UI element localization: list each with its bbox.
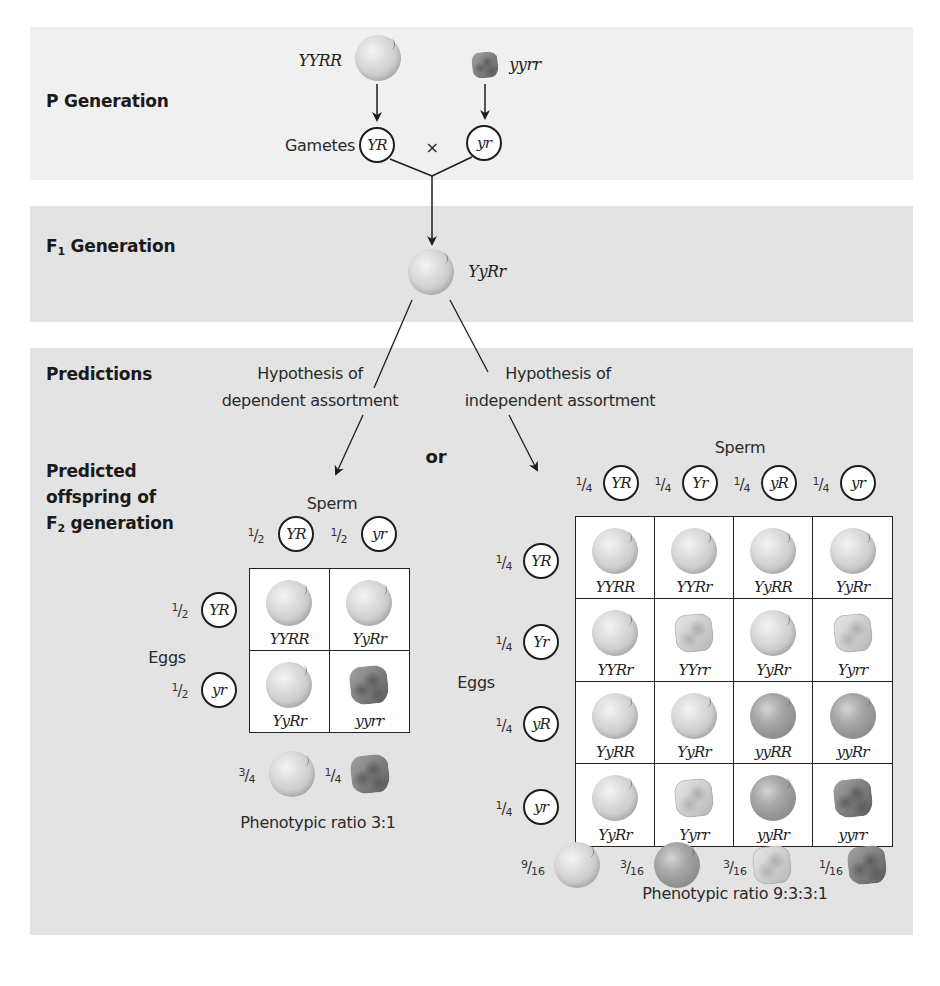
cell-genotype: yyRr	[757, 826, 789, 844]
fraction-denominator: 2	[182, 608, 189, 621]
independent-punnett-square: YYRRYYRrYyRRYyRrYYRrYYrrYyRrYyrrYyRRYyRr…	[575, 516, 893, 847]
punnett-cell: YyRr	[734, 599, 813, 681]
sperm-gamete: yR	[761, 465, 797, 501]
gamete-yr-recessive: yr	[466, 125, 502, 161]
wrinkled-yellow-pea-icon	[751, 844, 793, 886]
dependent-hypothesis-line1: Hypothesis of	[257, 364, 362, 383]
egg-gamete: Yr	[523, 624, 559, 660]
phenotype-fraction: 1/16	[819, 858, 843, 878]
egg-fraction: 1/2	[171, 601, 188, 621]
cell-genotype: YyRr	[756, 661, 790, 679]
sperm-gamete: Yr	[682, 465, 718, 501]
independent-eggs-label: Eggs	[457, 673, 495, 692]
cell-genotype: Yyrr	[838, 661, 868, 679]
sperm-fraction: 1/2	[247, 526, 264, 546]
round-green-pea-icon	[654, 842, 700, 888]
punnett-cell: yyRR	[734, 682, 813, 764]
egg-gamete: yR	[523, 706, 559, 742]
f1-genotype: YyRr	[468, 262, 505, 281]
wrinkled-yellow-pea-icon	[673, 777, 715, 819]
egg-fraction: 1/4	[495, 553, 512, 573]
fraction-denominator: 4	[249, 773, 256, 786]
dependent-hypothesis-line2: dependent assortment	[222, 391, 399, 410]
wrinkled-green-pea-icon	[348, 664, 390, 706]
punnett-cell: YyRr	[655, 682, 734, 764]
round-green-pea-icon	[830, 693, 876, 739]
fraction-denominator: 4	[665, 482, 672, 495]
sperm-gamete: YR	[278, 516, 314, 552]
sperm-gamete: yr	[840, 465, 876, 501]
punnett-cell: Yyrr	[813, 599, 892, 681]
egg-fraction: 1/4	[495, 634, 512, 654]
round-yellow-pea-icon	[830, 528, 876, 574]
round-yellow-pea-icon	[592, 693, 638, 739]
cell-genotype: YyRr	[352, 630, 386, 648]
parent2-genotype: yyrr	[509, 55, 540, 74]
punnett-cell: YYrr	[655, 599, 734, 681]
punnett-cell: YYRr	[655, 517, 734, 599]
egg-gamete: YR	[523, 543, 559, 579]
egg-gamete: yr	[201, 672, 237, 708]
fraction-denominator: 16	[531, 865, 545, 878]
punnett-cell: YyRR	[734, 517, 813, 599]
f1-round-yellow-pea-icon	[408, 249, 454, 295]
fraction-denominator: 2	[341, 533, 348, 546]
cell-genotype: YYrr	[679, 661, 710, 679]
round-yellow-pea-icon	[592, 610, 638, 656]
round-yellow-pea-icon	[269, 751, 315, 797]
f1-generation-label: F1 Generation	[46, 233, 175, 265]
punnett-cell: yyRr	[734, 764, 813, 846]
phenotype-fraction: 1/4	[324, 766, 341, 786]
cell-genotype: YYRR	[270, 630, 309, 648]
fraction-denominator: 2	[182, 688, 189, 701]
round-yellow-pea-icon	[266, 662, 312, 708]
egg-gamete: yr	[523, 789, 559, 825]
phenotype-fraction: 3/16	[620, 858, 644, 878]
fraction-denominator: 4	[744, 482, 751, 495]
punnett-cell: YYRR	[576, 517, 655, 599]
wrinkled-green-pea-icon	[832, 777, 874, 819]
egg-fraction: 1/2	[171, 681, 188, 701]
cell-genotype: YYRr	[676, 578, 711, 596]
fraction-denominator: 4	[335, 773, 342, 786]
sperm-fraction: 1/4	[812, 475, 829, 495]
parent1-genotype: YYRR	[298, 51, 341, 70]
punnett-cell: YyRr	[250, 651, 330, 733]
fraction-denominator: 16	[630, 865, 644, 878]
punnett-cell: yyrr	[813, 764, 892, 846]
sperm-fraction: 1/4	[654, 475, 671, 495]
wrinkled-green-pea-icon	[846, 844, 888, 886]
round-yellow-pea-icon	[355, 35, 401, 81]
independent-hypothesis-line2: independent assortment	[465, 391, 656, 410]
cross-symbol: ×	[425, 138, 438, 157]
fraction-denominator: 16	[733, 865, 747, 878]
cell-genotype: YyRR	[596, 743, 634, 761]
round-yellow-pea-icon	[346, 580, 392, 626]
punnett-cell: YyRr	[576, 764, 655, 846]
dependent-punnett-square: YYRRYyRrYyRryyrr	[249, 568, 410, 733]
cell-genotype: Yyrr	[679, 826, 709, 844]
independent-hypothesis-line1: Hypothesis of	[505, 364, 610, 383]
dependent-ratio-label: Phenotypic ratio 3:1	[240, 813, 396, 832]
predicted-offspring-label: Predicted offspring of F2 generation	[46, 458, 174, 542]
punnett-cell: yyrr	[330, 651, 410, 733]
fraction-denominator: 4	[586, 482, 593, 495]
cell-genotype: YYRR	[595, 578, 634, 596]
cell-genotype: YyRr	[272, 712, 306, 730]
cell-genotype: YyRr	[677, 743, 711, 761]
round-yellow-pea-icon	[592, 528, 638, 574]
sperm-fraction: 1/4	[575, 475, 592, 495]
phenotype-fraction: 3/16	[723, 858, 747, 878]
wrinkled-green-pea-icon	[471, 51, 500, 80]
fraction-denominator: 4	[506, 806, 513, 819]
round-green-pea-icon	[750, 693, 796, 739]
round-yellow-pea-icon	[671, 528, 717, 574]
cell-genotype: YYRr	[597, 661, 632, 679]
wrinkled-yellow-pea-icon	[832, 612, 874, 654]
predictions-label: Predictions	[46, 361, 152, 387]
round-yellow-pea-icon	[671, 693, 717, 739]
punnett-cell: YyRr	[330, 569, 410, 651]
round-yellow-pea-icon	[592, 775, 638, 821]
cell-genotype: YyRr	[598, 826, 632, 844]
cell-genotype: YyRr	[836, 578, 870, 596]
